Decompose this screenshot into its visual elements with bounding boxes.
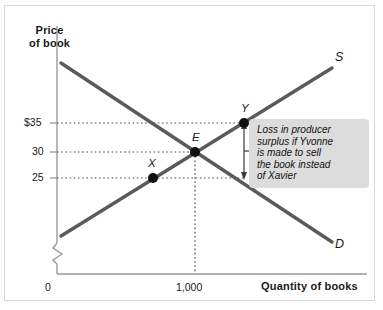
point-marker-xavier <box>148 173 158 183</box>
plot-frame: Price of book $35 30 25 0 1,000 Quantity… <box>4 5 375 301</box>
point-label-xavier: X <box>148 158 156 170</box>
supply-demand-figure: Price of book $35 30 25 0 1,000 Quantity… <box>0 0 383 310</box>
axis-break-mark <box>53 243 62 264</box>
producer-surplus-loss-note: Loss in producer surplus if Yvonne is ma… <box>249 119 369 188</box>
x-tick-label-1000: 1,000 <box>176 282 202 293</box>
y-tick-label-30: 30 <box>32 146 44 157</box>
point-label-equilibrium: E <box>192 132 200 144</box>
annotation-line-2: surplus if Yvonne <box>257 136 362 148</box>
annotation-line-1: Loss in producer <box>257 124 362 136</box>
point-marker-equilibrium <box>190 147 200 157</box>
point-label-yvonne: Y <box>241 103 249 115</box>
y-axis-title-line1: Price <box>29 24 70 37</box>
y-axis-title-line2: of book <box>29 37 70 50</box>
demand-curve-label: D <box>335 238 344 251</box>
point-marker-yvonne <box>239 118 249 128</box>
x-axis-title: Quantity of books <box>261 281 358 292</box>
supply-curve-label: S <box>335 51 343 64</box>
annotation-line-4: the book instead <box>257 159 362 171</box>
annotation-line-5: of Xavier <box>257 170 362 182</box>
surplus-loss-arrow-head-down <box>241 172 247 180</box>
y-tick-label-25: 25 <box>32 172 44 183</box>
y-axis-title: Price of book <box>29 24 70 50</box>
annotation-line-3: is made to sell <box>257 147 362 159</box>
y-tick-label-35: $35 <box>24 117 42 128</box>
origin-label: 0 <box>45 282 51 293</box>
